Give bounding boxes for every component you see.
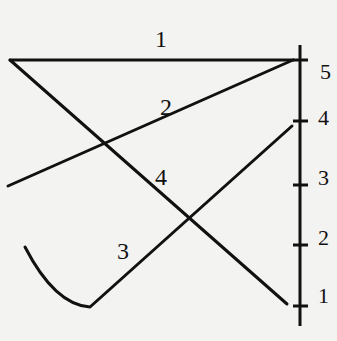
- line-2: [8, 60, 293, 186]
- numbered-lines: [8, 60, 293, 307]
- line-labels: 1 2 3 4: [117, 26, 172, 264]
- scale-axis: [293, 45, 308, 326]
- tick-labels: 5 4 3 2 1: [318, 59, 331, 308]
- tick-label-3: 3: [318, 165, 329, 190]
- tick-label-4: 4: [318, 105, 329, 130]
- line-3: [25, 126, 292, 307]
- tick-label-2: 2: [318, 225, 329, 250]
- line-4: [10, 60, 287, 304]
- line-diagram: 5 4 3 2 1 1 2 3 4: [0, 0, 337, 341]
- line-label-3: 3: [117, 238, 129, 264]
- line-label-4: 4: [155, 164, 167, 190]
- line-label-2: 2: [160, 94, 172, 120]
- tick-label-5: 5: [320, 59, 331, 84]
- tick-label-1: 1: [318, 283, 329, 308]
- line-label-1: 1: [155, 26, 167, 52]
